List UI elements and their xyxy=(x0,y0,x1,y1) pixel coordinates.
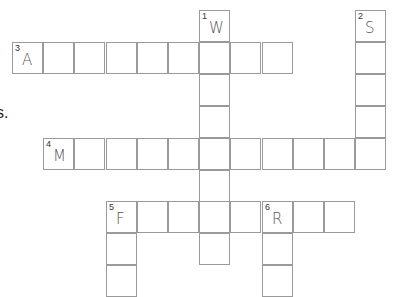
crossword-cell[interactable] xyxy=(106,233,137,265)
cell-letter: W xyxy=(209,19,224,37)
crossword-cell[interactable] xyxy=(199,138,230,170)
crossword-cell[interactable]: 2S xyxy=(355,10,386,42)
crossword-cell[interactable] xyxy=(199,170,230,202)
crossword-cell[interactable] xyxy=(43,42,74,74)
crossword-cell[interactable] xyxy=(106,265,137,297)
crossword-cell[interactable] xyxy=(355,106,386,138)
crossword-cell[interactable] xyxy=(168,201,199,233)
crossword-cell[interactable] xyxy=(168,42,199,74)
crossword-cell[interactable] xyxy=(262,265,293,297)
crossword-cell[interactable] xyxy=(106,138,137,170)
cell-letter: F xyxy=(116,210,125,228)
crossword-cell[interactable] xyxy=(137,42,168,74)
crossword-cell[interactable] xyxy=(230,42,261,74)
crossword-cell[interactable] xyxy=(324,138,355,170)
crossword-cell[interactable] xyxy=(262,138,293,170)
crossword-cell[interactable]: 1W xyxy=(199,10,230,42)
clue-number: 3 xyxy=(15,43,20,53)
crossword-cell[interactable]: 4M xyxy=(43,138,74,170)
crossword-cell[interactable] xyxy=(137,201,168,233)
crossword-cell[interactable] xyxy=(293,138,324,170)
crossword-cell[interactable]: 5F xyxy=(106,201,137,233)
cell-letter: R xyxy=(272,210,282,228)
crossword-cell[interactable] xyxy=(137,138,168,170)
clue-number: 1 xyxy=(202,11,207,21)
crossword-cell[interactable]: 6R xyxy=(262,201,293,233)
clue-number: 2 xyxy=(358,11,363,21)
crossword-cell[interactable]: 3A xyxy=(12,42,43,74)
cutoff-instruction-text: s. xyxy=(0,104,8,122)
crossword-cell[interactable] xyxy=(106,42,137,74)
crossword-cell[interactable] xyxy=(355,74,386,106)
crossword-cell[interactable] xyxy=(230,138,261,170)
crossword-cell[interactable] xyxy=(199,42,230,74)
crossword-cell[interactable] xyxy=(355,138,386,170)
crossword-cell[interactable] xyxy=(293,201,324,233)
crossword-cell[interactable] xyxy=(230,201,261,233)
crossword-cell[interactable] xyxy=(199,233,230,265)
cell-letter: A xyxy=(22,51,32,69)
crossword-cell[interactable] xyxy=(262,233,293,265)
crossword-cell[interactable] xyxy=(199,74,230,106)
crossword-cell[interactable] xyxy=(355,42,386,74)
clue-number: 6 xyxy=(265,202,270,212)
crossword-cell[interactable] xyxy=(74,138,105,170)
crossword-cell[interactable] xyxy=(199,201,230,233)
crossword-cell[interactable] xyxy=(199,106,230,138)
crossword-cell[interactable] xyxy=(262,42,293,74)
clue-number: 5 xyxy=(109,202,114,212)
crossword-cell[interactable] xyxy=(324,201,355,233)
cell-letter: S xyxy=(365,19,375,37)
clue-number: 4 xyxy=(46,139,51,149)
crossword-cell[interactable] xyxy=(74,42,105,74)
cell-letter: M xyxy=(53,147,66,165)
crossword-cell[interactable] xyxy=(168,138,199,170)
